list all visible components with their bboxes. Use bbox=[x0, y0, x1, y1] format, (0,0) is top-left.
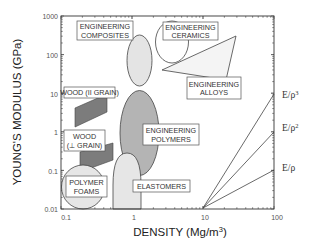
y-axis-title: YOUNG'S MODULUS (GPa) bbox=[11, 39, 23, 186]
y-tick: 1000 bbox=[42, 13, 58, 20]
guide-line-e-rho2 bbox=[203, 132, 274, 208]
label-e-rho2: E/ρ2 bbox=[282, 122, 298, 133]
y-tick: 1 bbox=[54, 129, 58, 136]
label-polymer-foams: POLYMER FOAMS bbox=[66, 176, 107, 197]
y-tick: 100 bbox=[46, 52, 58, 59]
y-tick: 0.1 bbox=[48, 168, 58, 175]
label-engineering-composites: ENGINEERING COMPOSITES bbox=[77, 21, 133, 40]
x-tick: 10 bbox=[201, 214, 209, 221]
x-tick: 1 bbox=[132, 214, 136, 221]
x-tick: 100 bbox=[271, 214, 283, 221]
y-tick: 10 bbox=[50, 91, 58, 98]
material-selection-chart: ENGINEERING COMPOSITES ENGINEERING CERAM… bbox=[0, 0, 315, 251]
label-engineering-alloys: ENGINEERING ALLOYS bbox=[187, 77, 241, 99]
label-text: WOOD (II GRAIN) bbox=[60, 88, 119, 97]
label-text: ELASTOMERS bbox=[137, 182, 186, 191]
x-axis-title: DENSITY (Mg/m3) bbox=[133, 225, 227, 238]
ratio-labels: E/ρ3 E/ρ2 E/ρ bbox=[282, 89, 298, 173]
label-wood-parallel-grain: WOOD (II GRAIN) bbox=[60, 87, 119, 98]
label-e-rho: E/ρ bbox=[282, 163, 295, 173]
label-text: ALLOYS bbox=[200, 88, 228, 97]
guide-line-e-rho bbox=[203, 170, 274, 208]
label-text: POLYMER bbox=[69, 178, 104, 187]
label-text: CERAMICS bbox=[172, 31, 210, 40]
label-engineering-ceramics: ENGINEERING CERAMICS bbox=[163, 22, 218, 40]
guide-lines bbox=[203, 94, 274, 208]
label-text: POLYMERS bbox=[151, 135, 191, 144]
x-tick: 0.1 bbox=[61, 214, 71, 221]
label-elastomers: ELASTOMERS bbox=[133, 180, 190, 192]
label-text: WOOD bbox=[73, 132, 96, 141]
label-text: COMPOSITES bbox=[81, 31, 129, 40]
region-wood-parallel-grain bbox=[75, 94, 107, 127]
guide-line-e-rho3 bbox=[203, 94, 274, 208]
label-engineering-polymers: ENGINEERING POLYMERS bbox=[143, 124, 199, 145]
y-tick: 0.01 bbox=[44, 206, 58, 213]
label-text: (⊥ GRAIN) bbox=[67, 141, 103, 150]
label-wood-perpendicular-grain: WOOD (⊥ GRAIN) bbox=[64, 130, 105, 151]
region-engineering-composites bbox=[127, 35, 152, 86]
x-tick-labels: 0.1 1 10 100 bbox=[61, 214, 283, 221]
label-text: FOAMS bbox=[74, 187, 100, 196]
y-tick-labels: 1000 100 10 1 0.1 0.01 bbox=[42, 13, 58, 213]
label-e-rho3: E/ρ3 bbox=[282, 89, 298, 100]
